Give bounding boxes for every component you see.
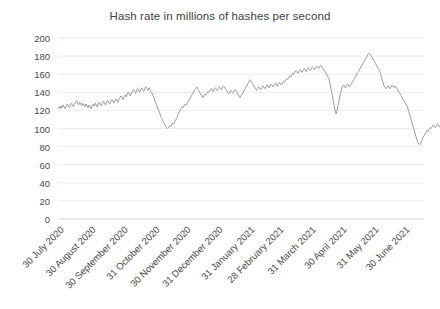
x-tick-label: 28 February 2021 (225, 224, 286, 285)
chart-container: Hash rate in millions of hashes per seco… (0, 0, 440, 309)
x-axis: 30 July 202030 August 202030 September 2… (0, 0, 440, 309)
